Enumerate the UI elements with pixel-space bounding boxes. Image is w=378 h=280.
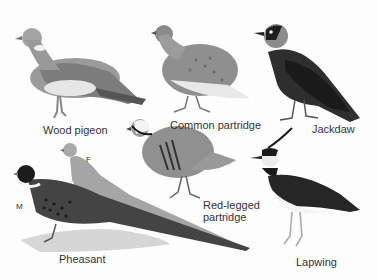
pheasant-label: Pheasant [59, 253, 105, 265]
jackdaw-label: Jackdaw [312, 123, 355, 135]
pheasant-female-marker: F [86, 155, 91, 164]
common-partridge-label: Common partridge [170, 119, 261, 131]
bird-illustrations [0, 0, 378, 280]
wood-pigeon-label: Wood pigeon [43, 124, 108, 136]
bird-plate: Wood pigeon Common partridge Jackdaw Red… [0, 0, 378, 280]
lapwing-illustration [250, 128, 360, 246]
red-legged-partridge-label-line2: partridge [203, 211, 246, 223]
red-legged-partridge-label-line1: Red-legged [203, 199, 260, 211]
pheasant-male-marker: M [16, 202, 23, 211]
common-partridge-illustration [151, 25, 250, 112]
jackdaw-illustration [254, 24, 360, 122]
lapwing-label: Lapwing [296, 256, 337, 268]
wood-pigeon-illustration [15, 28, 146, 118]
